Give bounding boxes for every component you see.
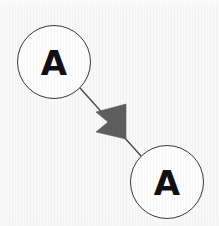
diagram-canvas: A A — [0, 0, 219, 226]
diagram-svg: A A — [0, 0, 219, 226]
edge-arrowhead-icon[interactable] — [96, 104, 126, 139]
node-label: A — [41, 43, 68, 83]
node-label: A — [154, 163, 181, 203]
node-a-top[interactable]: A — [18, 26, 91, 99]
node-a-bottom[interactable]: A — [131, 146, 204, 219]
